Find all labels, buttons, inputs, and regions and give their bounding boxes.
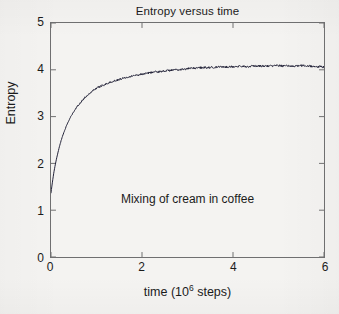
y-axis-label: Entropy [4,48,18,158]
x-tick-label: 2 [127,261,157,273]
x-axis-label: time (106 steps) [50,285,325,299]
plot-svg [51,23,324,257]
x-tick-label: 4 [218,261,248,273]
x-tick-label: 6 [310,261,339,273]
x-tick-label: 0 [35,261,65,273]
figure-container: Entropy versus time 012345 0246 Entropy … [0,0,339,314]
y-tick-label: 2 [0,158,44,170]
entropy-curve [51,65,324,193]
y-tick-label: 1 [0,205,44,217]
x-axis-label-prefix: time (10 [144,285,189,299]
x-axis-label-suffix: steps) [194,285,232,299]
y-tick-label: 5 [0,16,44,28]
y-axis-ticks [51,23,324,257]
plot-annotation: Mixing of cream in coffee [50,192,325,206]
x-axis-ticks [51,23,324,257]
chart-title: Entropy versus time [50,5,325,17]
plot-area [50,22,325,258]
